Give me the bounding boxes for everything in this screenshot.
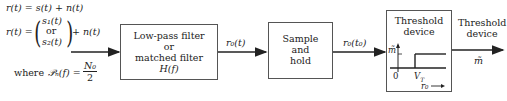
plot-origin-label: 0 [393, 71, 398, 81]
left-paren: ( [34, 18, 41, 48]
output-label: Threshold device [458, 17, 506, 39]
equation-received-signal: r(t) = s(t) + n(t) [6, 2, 83, 13]
filter-label-line1: Low-pass filter [121, 30, 217, 41]
equation-s2: s₂(t) [42, 36, 62, 47]
equation-or: or [46, 25, 56, 36]
filter-label-line3: matched filter [121, 52, 217, 63]
equation-where: where [14, 67, 44, 78]
plot-x-label: r₀ [421, 81, 428, 91]
sample-label-line1: Sample [269, 33, 332, 44]
output-label-line2: device [458, 28, 506, 39]
equation-fraction: N₀ 2 [82, 60, 98, 83]
sample-label-line2: and [269, 44, 332, 55]
sample-hold-block: Sample and hold [268, 22, 333, 79]
equation-noise-term: + n(t) [72, 26, 100, 37]
plot-y-label: m̃ [388, 45, 396, 55]
signal-sample-output: r₀(t₀) [343, 37, 366, 48]
threshold-device-block: Threshold device m̃ 0 VT r₀ [386, 10, 452, 92]
output-symbol: m̃ [474, 55, 483, 66]
fraction-numerator: N₀ [82, 60, 98, 71]
equation-lhs: r(t) = [6, 26, 33, 37]
filter-label-line4: H(f) [121, 63, 217, 74]
equation-psd: 𝒫ₙ(f) = [48, 67, 81, 79]
filter-block: Low-pass filter or matched filter H(f) [120, 24, 218, 80]
signal-filter-output: r₀(t) [226, 37, 246, 48]
output-label-line1: Threshold [458, 17, 506, 28]
sample-label-line3: hold [269, 55, 332, 66]
fraction-denominator: 2 [82, 72, 98, 83]
filter-label-line2: or [121, 41, 217, 52]
